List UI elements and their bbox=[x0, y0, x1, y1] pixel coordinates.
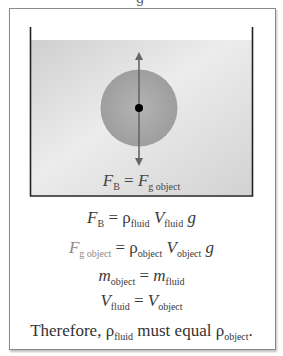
conclusion-middle: must equal bbox=[133, 321, 216, 340]
conclusion-suffix: . bbox=[249, 321, 253, 340]
force-balance-label: FB = Fg object bbox=[0, 171, 283, 192]
eq-op: = bbox=[139, 266, 149, 285]
center-dot bbox=[135, 104, 143, 112]
eq-lhs: V bbox=[100, 291, 110, 310]
eq-lhs: m bbox=[99, 266, 111, 285]
conclusion-symbol: ρ bbox=[106, 321, 114, 340]
eq-term: m bbox=[153, 266, 165, 285]
label-lhs-sub: B bbox=[113, 181, 120, 192]
eq-term-sub: fluid bbox=[166, 276, 185, 287]
conclusion-text: Therefore, ρfluid must equal ρobject. bbox=[0, 321, 283, 342]
eq-op: = bbox=[108, 208, 118, 227]
equation-mass: mobject = mfluid bbox=[0, 266, 283, 292]
eq-term: V bbox=[154, 208, 164, 227]
eq-term: g bbox=[187, 208, 196, 227]
eq-lhs-sub: fluid bbox=[111, 301, 130, 312]
equation-gravity-force: Fg object = ρobject Vobject g bbox=[0, 238, 283, 264]
eq-term: V bbox=[167, 238, 177, 257]
equation-buoyant-force: FB = ρfluid Vfluid g bbox=[0, 208, 283, 234]
label-rhs-sub: g object bbox=[148, 181, 180, 192]
eq-lhs-sub: B bbox=[97, 218, 104, 229]
eq-term: g bbox=[206, 238, 215, 257]
eq-lhs: F bbox=[87, 208, 97, 227]
eq-lhs-sub: object bbox=[111, 276, 135, 287]
eq-term: V bbox=[148, 291, 158, 310]
eq-op: = bbox=[115, 238, 125, 257]
label-lhs: F bbox=[103, 171, 113, 190]
eq-term-sub: object bbox=[138, 248, 162, 259]
conclusion-prefix: Therefore, bbox=[30, 321, 106, 340]
conclusion-sub: fluid bbox=[114, 331, 133, 342]
eq-term: ρ bbox=[129, 238, 137, 257]
eq-term-sub: fluid bbox=[131, 218, 150, 229]
eq-lhs: F bbox=[69, 238, 79, 257]
equation-volume: Vfluid = Vobject bbox=[0, 291, 283, 317]
label-op: = bbox=[124, 171, 134, 190]
eq-op: = bbox=[134, 291, 144, 310]
eq-term-sub: object bbox=[158, 301, 182, 312]
eq-term-sub: fluid bbox=[164, 218, 183, 229]
eq-lhs-sub: g object bbox=[79, 248, 111, 259]
eq-term-sub: object bbox=[177, 248, 201, 259]
label-rhs: F bbox=[138, 171, 148, 190]
eq-term: ρ bbox=[122, 208, 130, 227]
conclusion-sub: object bbox=[224, 331, 248, 342]
conclusion-symbol: ρ bbox=[216, 321, 224, 340]
